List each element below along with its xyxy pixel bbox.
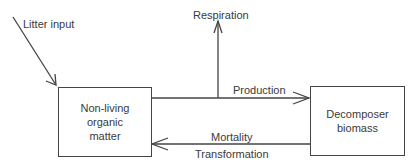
respiration-label: Respiration xyxy=(193,9,249,21)
non-living-organic-matter-box: Non-living organic matter xyxy=(58,87,152,157)
decomposer-biomass-label: Decomposer biomass xyxy=(326,107,388,135)
litter-input-label: Litter input xyxy=(23,18,74,30)
non-living-organic-matter-label: Non-living organic matter xyxy=(81,101,130,143)
mortality-label: Mortality xyxy=(211,131,253,143)
decomposer-biomass-box: Decomposer biomass xyxy=(310,86,405,156)
transformation-label: Transformation xyxy=(195,148,269,160)
production-label: Production xyxy=(233,84,286,96)
